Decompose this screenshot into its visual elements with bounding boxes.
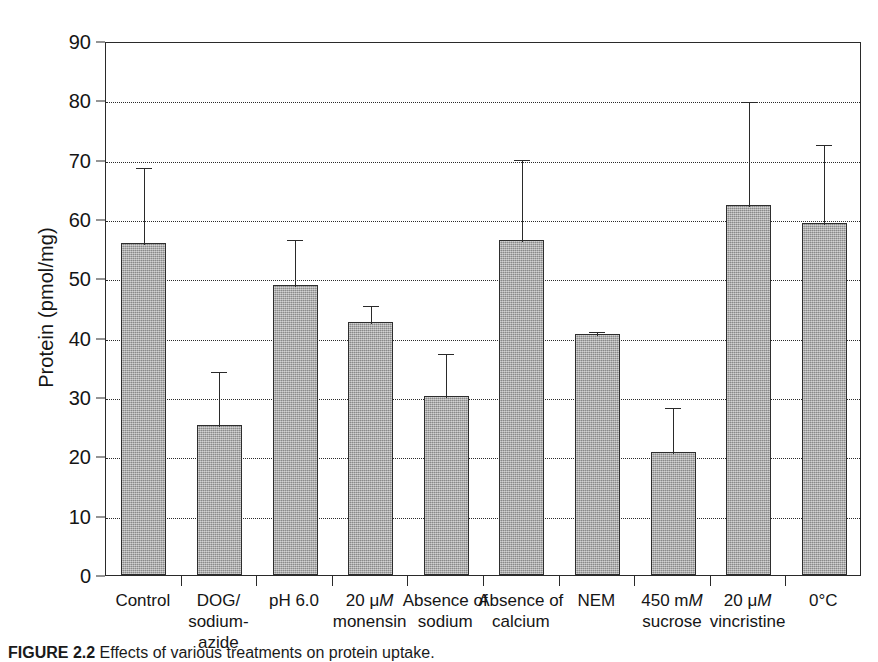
error-bar-line <box>371 306 372 324</box>
bar <box>273 285 318 575</box>
x-tick-mark <box>559 576 560 586</box>
bar <box>348 322 393 575</box>
error-bar-line <box>144 168 145 245</box>
y-tick-mark <box>96 457 105 458</box>
bar <box>121 243 166 575</box>
y-tick-label: 20 <box>45 446 91 469</box>
error-bar-cap <box>136 168 152 169</box>
error-bar-line <box>522 160 523 241</box>
y-tick-mark <box>96 516 105 517</box>
y-tick-label: 80 <box>45 90 91 113</box>
y-tick-mark <box>96 42 105 43</box>
x-tick-mark <box>407 576 408 586</box>
error-bar-cap <box>665 408 681 409</box>
bars-layer <box>106 43 860 575</box>
y-tick-label: 90 <box>45 31 91 54</box>
y-tick-mark <box>96 279 105 280</box>
plot-area <box>105 42 861 576</box>
x-tick-mark <box>332 576 333 586</box>
error-bar-cap <box>438 354 454 355</box>
y-tick-mark <box>96 220 105 221</box>
y-tick-mark <box>96 398 105 399</box>
error-bar-line <box>446 354 447 399</box>
error-bar-cap <box>514 160 530 161</box>
error-bar-cap <box>363 306 379 307</box>
x-tick-mark <box>634 576 635 586</box>
x-tick-mark <box>785 576 786 586</box>
x-tick-mark <box>256 576 257 586</box>
error-bar-line <box>749 102 750 206</box>
y-tick-label: 60 <box>45 209 91 232</box>
error-bar-line <box>295 240 296 287</box>
y-tick-label: 40 <box>45 327 91 350</box>
bar <box>651 452 696 575</box>
x-tick-mark <box>181 576 182 586</box>
bar <box>197 425 242 575</box>
error-bar-line <box>673 408 674 453</box>
bar <box>802 223 847 575</box>
figure-caption: FIGURE 2.2 Effects of various treatments… <box>8 644 870 662</box>
y-tick-label: 50 <box>45 268 91 291</box>
error-bar-cap <box>741 102 757 103</box>
y-tick-mark <box>96 160 105 161</box>
error-bar-cap <box>287 240 303 241</box>
y-axis-title: Protein (pmol/mg) <box>35 48 58 568</box>
y-tick-label: 30 <box>45 387 91 410</box>
error-bar-cap <box>589 332 605 333</box>
y-tick-label: 70 <box>45 149 91 172</box>
y-tick-mark <box>96 101 105 102</box>
bar <box>726 205 771 575</box>
error-bar-cap <box>211 372 227 373</box>
x-tick-mark <box>483 576 484 586</box>
bar <box>424 396 469 575</box>
error-bar-cap <box>816 145 832 146</box>
x-category-label: 0°C <box>777 590 869 611</box>
y-tick-label: 10 <box>45 505 91 528</box>
error-bar-line <box>219 372 220 427</box>
error-bar-line <box>824 145 825 225</box>
y-tick-mark <box>96 338 105 339</box>
y-tick-mark <box>96 576 105 577</box>
x-tick-mark <box>710 576 711 586</box>
caption-label: FIGURE 2.2 <box>8 644 95 661</box>
bar <box>575 334 620 575</box>
bar <box>499 240 544 575</box>
y-tick-label: 0 <box>45 565 91 588</box>
caption-text: Effects of various treatments on protein… <box>100 644 435 661</box>
